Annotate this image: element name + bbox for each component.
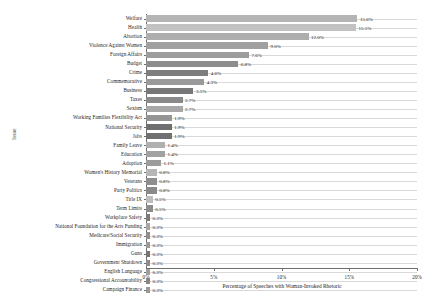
- bar: 7.6%: [146, 52, 249, 58]
- category-label: Guns: [131, 251, 142, 256]
- bar-row: Party Politics0.8%: [146, 186, 417, 195]
- value-label: 0.5%: [155, 197, 165, 202]
- bar: 4.6%: [146, 70, 208, 76]
- category-label: Crime: [129, 70, 142, 75]
- gridline: [146, 263, 417, 264]
- gridline: [146, 118, 417, 119]
- x-tick: [417, 268, 418, 271]
- bar: 15.5%: [146, 24, 356, 30]
- x-tick: [214, 268, 215, 271]
- bar: 0.3%: [146, 260, 150, 266]
- category-label: Violence Against Women: [89, 43, 142, 48]
- value-label: 1.1%: [163, 161, 173, 166]
- value-label: 15.6%: [360, 16, 373, 21]
- bar: 1.9%: [146, 124, 172, 130]
- value-label: 0.3%: [153, 287, 163, 292]
- plot-area: Welfare15.6%Health15.5%Abortion12.0%Viol…: [146, 14, 417, 268]
- value-label: 0.5%: [155, 206, 165, 211]
- category-label: Working Families Flexibility Act: [73, 115, 142, 120]
- value-label: 0.3%: [153, 215, 163, 220]
- category-label: Welfare: [126, 16, 142, 21]
- value-label: 7.6%: [251, 52, 261, 57]
- value-label: 3.5%: [196, 88, 206, 93]
- category-label: Health: [128, 25, 142, 30]
- bar-row: Title IX0.5%: [146, 195, 417, 204]
- bar: 12.0%: [146, 33, 309, 39]
- bar: 0.5%: [146, 196, 153, 202]
- value-label: 0.3%: [153, 260, 163, 265]
- category-label: Campaign Finance: [103, 287, 142, 292]
- y-axis-title: Issue: [11, 114, 17, 154]
- bar: 0.3%: [146, 287, 150, 293]
- bar-row: Term Limits0.5%: [146, 204, 417, 213]
- bar-row: Commemorative4.3%: [146, 77, 417, 86]
- bar: 15.6%: [146, 15, 357, 21]
- bar: 0.3%: [146, 278, 150, 284]
- bar: 1.9%: [146, 115, 172, 121]
- value-label: 4.3%: [207, 79, 217, 84]
- bar-row: Working Families Flexibility Act1.9%: [146, 114, 417, 123]
- bar-row: Guns0.3%: [146, 249, 417, 258]
- bar-row: Foreign Affairs7.6%: [146, 50, 417, 59]
- gridline: [146, 199, 417, 200]
- bar-row: National Security1.9%: [146, 123, 417, 132]
- bar: 0.3%: [146, 232, 150, 238]
- value-label: 0.3%: [153, 269, 163, 274]
- x-tick: [349, 268, 350, 271]
- bar: 0.8%: [146, 178, 157, 184]
- category-label: Term Limits: [116, 206, 142, 211]
- category-label: National Security: [105, 125, 142, 130]
- bar: 1.1%: [146, 160, 161, 166]
- bar-row: Crime4.6%: [146, 68, 417, 77]
- value-label: 0.8%: [159, 188, 169, 193]
- bar-row: Welfare15.6%: [146, 14, 417, 23]
- bar-row: Taxes2.7%: [146, 95, 417, 104]
- category-label: Sexism: [127, 106, 142, 111]
- category-label: English Language: [104, 269, 142, 274]
- category-label: Budget: [127, 61, 142, 66]
- bar-row: Government Shutdown0.3%: [146, 258, 417, 267]
- x-tick: [282, 268, 283, 271]
- x-tick-label: 10%: [277, 274, 286, 280]
- gridline: [146, 236, 417, 237]
- value-label: 0.3%: [153, 242, 163, 247]
- category-label: Party Politics: [114, 188, 142, 193]
- bar-row: Education1.4%: [146, 150, 417, 159]
- gridline: [146, 145, 417, 146]
- value-label: 12.0%: [311, 34, 324, 39]
- x-tick-label: 5%: [210, 274, 217, 280]
- category-label: Veterans: [124, 179, 142, 184]
- gridline: [146, 172, 417, 173]
- value-label: 6.8%: [241, 61, 251, 66]
- gridline: [146, 227, 417, 228]
- bar-row: National Foundation for the Arts Funding…: [146, 222, 417, 231]
- bar-row: Family Leave1.4%: [146, 141, 417, 150]
- category-label: Family Leave: [113, 143, 142, 148]
- value-label: 0.3%: [153, 251, 163, 256]
- bar-chart: Issue Welfare15.6%Health15.5%Abortion12.…: [0, 0, 438, 303]
- category-label: Congressional Accountability: [80, 278, 142, 283]
- bar: 0.5%: [146, 205, 153, 211]
- bar: 1.4%: [146, 142, 165, 148]
- bar: 0.8%: [146, 169, 157, 175]
- bar-row: Medicare/Social Security0.3%: [146, 231, 417, 240]
- x-axis-title: Percentage of Speeches with Woman-Invoke…: [146, 283, 418, 289]
- gridline: [146, 163, 417, 164]
- bar: 0.3%: [146, 223, 150, 229]
- category-label: Business: [123, 88, 142, 93]
- value-label: 2.7%: [185, 106, 195, 111]
- bar: 2.7%: [146, 97, 183, 103]
- gridline: [146, 136, 417, 137]
- bar-row: Immigration0.3%: [146, 240, 417, 249]
- bar: 9.0%: [146, 42, 268, 48]
- bar-row: Sexism2.7%: [146, 104, 417, 113]
- category-label: Jobs: [133, 134, 142, 139]
- bar: 4.3%: [146, 79, 204, 85]
- category-label: Title IX: [126, 197, 143, 202]
- bar-row: Abortion12.0%: [146, 32, 417, 41]
- bar-row: Veterans0.8%: [146, 177, 417, 186]
- bar: 0.3%: [146, 269, 150, 275]
- category-label: Taxes: [130, 97, 142, 102]
- bar: 0.8%: [146, 187, 157, 193]
- gridline: [146, 209, 417, 210]
